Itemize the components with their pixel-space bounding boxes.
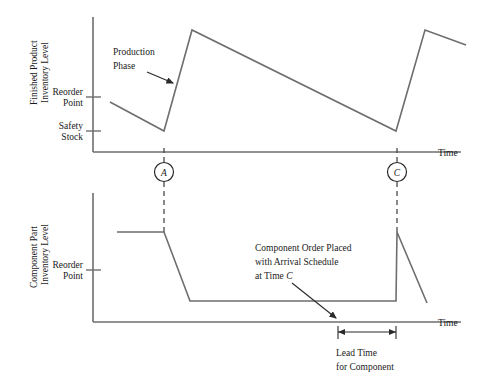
lead-time-label-line2: for Component [336, 362, 394, 372]
bottom-chart-y-axis-label-line2: Inventory Level [40, 224, 50, 285]
component-order-label-line3-italic: C [286, 271, 293, 281]
component-order-label-line1: Component Order Placed [255, 243, 352, 253]
event-markers: A C [155, 148, 407, 232]
bottom-chart: Component Part Inventory Level Reorder P… [29, 193, 461, 372]
bottom-chart-tick-label-reorder-line2: Point [63, 271, 83, 281]
lead-time-label-line1: Lead Time [336, 348, 377, 358]
bottom-chart-tick-label-reorder-line1: Reorder [52, 260, 83, 270]
top-chart-tick-label-reorder-line2: Point [63, 98, 83, 108]
bottom-chart-y-axis-label-line1: Component Part [29, 226, 39, 288]
top-chart-y-axis-label-line1: Finished Product [29, 40, 39, 105]
top-chart-inventory-line [110, 30, 466, 131]
top-chart-tick-label-safety-line1: Safety [59, 121, 84, 131]
top-chart-y-axis-label-line2: Inventory Level [40, 42, 50, 103]
diagram-canvas: Finished Product Inventory Level Reorder… [0, 0, 487, 381]
marker-a-letter: A [160, 168, 167, 178]
production-phase-label-line2: Phase [113, 61, 135, 71]
top-chart-x-axis-label: Time [438, 148, 458, 158]
marker-c-letter: C [394, 168, 401, 178]
component-order-label-line2: with Arrival Schedule [255, 257, 338, 267]
top-chart: Finished Product Inventory Level Reorder… [29, 17, 466, 158]
production-phase-label-line1: Production [113, 47, 155, 57]
inventory-diagram-figure: Finished Product Inventory Level Reorder… [0, 0, 487, 381]
top-chart-tick-label-safety-line2: Stock [61, 132, 83, 142]
top-chart-tick-label-reorder-line1: Reorder [52, 87, 83, 97]
lead-time-right-arrowhead [389, 329, 396, 335]
bottom-chart-x-axis-label: Time [438, 318, 458, 328]
production-phase-arrow [147, 72, 173, 83]
component-order-label-line3-prefix: at Time [255, 271, 286, 281]
lead-time-left-arrowhead [338, 329, 345, 335]
component-order-label-line3: at Time C [255, 271, 293, 281]
